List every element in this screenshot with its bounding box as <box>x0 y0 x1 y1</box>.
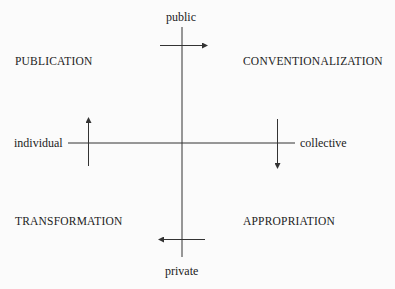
axis-label-private: private <box>165 264 198 278</box>
axis-label-collective: collective <box>300 136 347 150</box>
quadrant-label-transformation: TRANSFORMATION <box>15 215 123 227</box>
quadrant-label-publication: PUBLICATION <box>15 55 93 67</box>
axis-label-individual: individual <box>14 136 63 150</box>
quadrant-label-appropriation: APPROPRIATION <box>243 215 335 227</box>
axis-label-public: public <box>166 10 196 24</box>
quadrant-label-conventionalization: CONVENTIONALIZATION <box>243 55 383 67</box>
